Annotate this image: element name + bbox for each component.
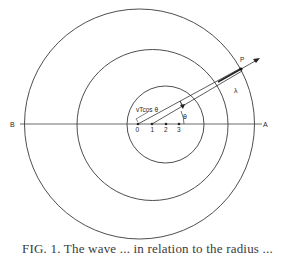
arrow-head-icon [253, 58, 260, 63]
label-lambda: λ [234, 87, 238, 94]
perpendicular-arrow-icon [180, 104, 185, 109]
label-b: B [10, 121, 15, 128]
tick-label-0: 0 [136, 126, 140, 133]
point-p-marker [239, 67, 242, 70]
label-p: P [240, 56, 244, 63]
tick-label-2: 2 [164, 126, 168, 133]
wavelength-segment [218, 69, 241, 82]
label-a: A [263, 121, 268, 128]
tick-point-2 [165, 123, 168, 126]
tick-label-1: 1 [151, 126, 155, 133]
projection-bracket [136, 112, 148, 122]
ray-from-1 [152, 71, 242, 124]
figure-caption: FIG. 1. The wave ... in relation to the … [22, 241, 282, 257]
tick-label-3: 3 [177, 126, 181, 133]
label-theta: θ [183, 113, 187, 120]
label-projection: vTcos θ [136, 106, 158, 113]
tick-point-3 [178, 123, 181, 126]
ray-from-0 [138, 68, 241, 124]
